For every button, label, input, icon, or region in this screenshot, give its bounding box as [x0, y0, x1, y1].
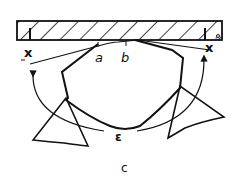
- right-x-marker: x: [205, 40, 214, 55]
- hatched-beam: [17, 21, 222, 40]
- figure-caption: c: [121, 161, 128, 175]
- label-epsilon: ε: [115, 130, 122, 144]
- right-triangle-support: [168, 86, 224, 138]
- right-x-marker-prime: ': [215, 37, 217, 46]
- diagram-canvas: a b ε x x ' c: [0, 0, 242, 184]
- left-x-marker: x: [24, 45, 33, 60]
- label-b: b: [121, 50, 129, 65]
- label-a: a: [95, 50, 103, 65]
- left-triangle-support: [33, 98, 88, 146]
